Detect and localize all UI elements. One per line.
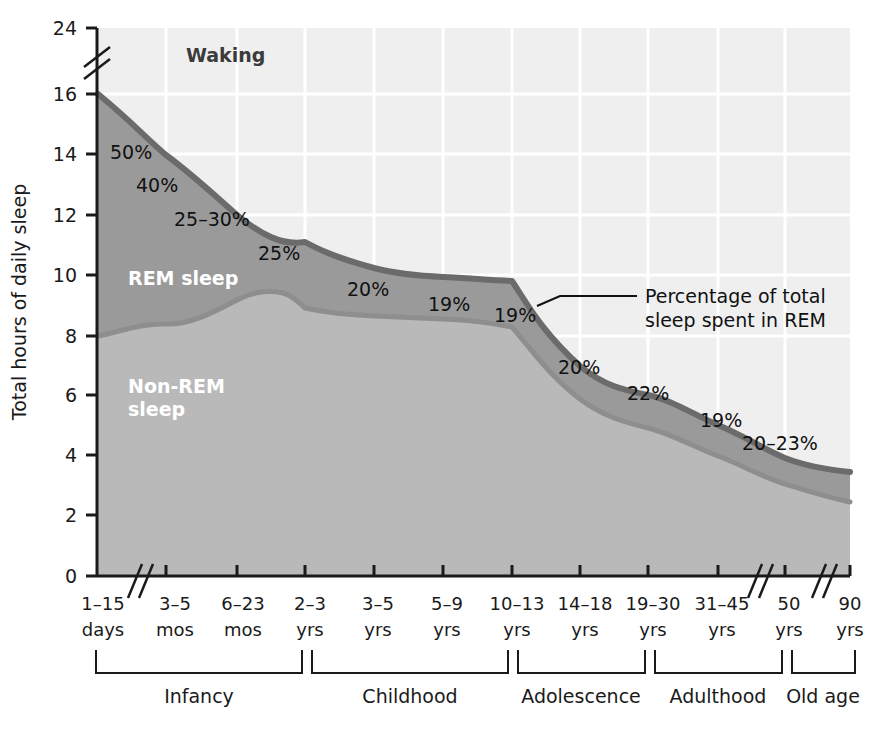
band-label-waking: Waking xyxy=(186,44,265,66)
y-tick-label-16: 16 xyxy=(53,83,77,105)
x-tick-label-4-top: 3–5 xyxy=(362,593,394,614)
rem-percent-label-9: 19% xyxy=(700,409,742,431)
x-tick-label-10-top: 50 xyxy=(778,593,801,614)
y-tick-label-4: 4 xyxy=(65,444,77,466)
rem-percent-label-3: 25% xyxy=(258,242,300,264)
rem-percent-label-8: 22% xyxy=(627,382,669,404)
life-stage-label-adolescence: Adolescence xyxy=(521,685,641,707)
x-tick-label-7-top: 14–18 xyxy=(558,593,613,614)
y-tick-label-24: 24 xyxy=(53,17,77,39)
x-tick-label-9-top: 31–45 xyxy=(695,593,750,614)
y-axis-ticks xyxy=(86,28,97,576)
x-tick-label-0-bottom: days xyxy=(82,619,125,640)
rem-percent-label-10: 20–23% xyxy=(742,432,818,454)
band-label-non-rem-line2: sleep xyxy=(128,398,185,420)
x-tick-label-8-bottom: yrs xyxy=(639,619,666,640)
x-tick-label-7-bottom: yrs xyxy=(571,619,598,640)
life-stage-label-adulthood: Adulthood xyxy=(670,685,767,707)
rem-percent-label-4: 20% xyxy=(347,278,389,300)
x-tick-label-2-bottom: mos xyxy=(224,619,262,640)
y-tick-label-8: 8 xyxy=(65,325,77,347)
callout-text-line2: sleep spent in REM xyxy=(645,309,826,331)
life-stage-label-childhood: Childhood xyxy=(362,685,457,707)
sleep-across-lifespan-figure: Waking REM sleep Non-REM sleep 50% 40% 2… xyxy=(0,0,880,729)
x-tick-label-0-top: 1–15 xyxy=(81,593,124,614)
rem-percent-label-5: 19% xyxy=(428,293,470,315)
y-tick-label-2: 2 xyxy=(65,504,77,526)
rem-percent-label-2: 25–30% xyxy=(174,208,250,230)
band-label-rem-sleep: REM sleep xyxy=(128,267,238,289)
y-tick-label-10: 10 xyxy=(53,264,77,286)
rem-percent-label-0: 50% xyxy=(110,141,152,163)
x-tick-label-1-top: 3–5 xyxy=(159,593,191,614)
x-tick-label-2-top: 6–23 xyxy=(221,593,264,614)
x-tick-label-11-bottom: yrs xyxy=(836,619,863,640)
y-tick-label-0: 0 xyxy=(65,565,77,587)
rem-percent-label-1: 40% xyxy=(136,174,178,196)
x-tick-label-1-bottom: mos xyxy=(156,619,194,640)
callout-text-line1: Percentage of total xyxy=(645,285,826,307)
x-tick-label-6-top: 10–13 xyxy=(490,593,545,614)
y-tick-label-12: 12 xyxy=(53,204,77,226)
life-stage-brackets xyxy=(96,650,855,673)
x-tick-label-5-top: 5–9 xyxy=(431,593,463,614)
x-tick-label-4-bottom: yrs xyxy=(364,619,391,640)
band-label-non-rem-line1: Non-REM xyxy=(128,375,225,397)
x-tick-label-5-bottom: yrs xyxy=(433,619,460,640)
rem-percent-label-7: 20% xyxy=(558,356,600,378)
x-tick-label-8-top: 19–30 xyxy=(626,593,681,614)
rem-percent-label-6: 19% xyxy=(494,304,536,326)
x-tick-label-3-bottom: yrs xyxy=(296,619,323,640)
x-tick-label-11-top: 90 xyxy=(839,593,862,614)
x-tick-label-10-bottom: yrs xyxy=(775,619,802,640)
x-tick-label-6-bottom: yrs xyxy=(503,619,530,640)
life-stage-label-old-age: Old age xyxy=(786,685,860,707)
chart-canvas: Waking REM sleep Non-REM sleep 50% 40% 2… xyxy=(0,0,880,729)
life-stage-label-infancy: Infancy xyxy=(164,685,234,707)
y-tick-label-6: 6 xyxy=(65,384,77,406)
x-tick-label-9-bottom: yrs xyxy=(708,619,735,640)
y-tick-label-14: 14 xyxy=(53,143,77,165)
y-axis-title: Total hours of daily sleep xyxy=(8,184,30,421)
x-tick-label-3-top: 2–3 xyxy=(294,593,326,614)
